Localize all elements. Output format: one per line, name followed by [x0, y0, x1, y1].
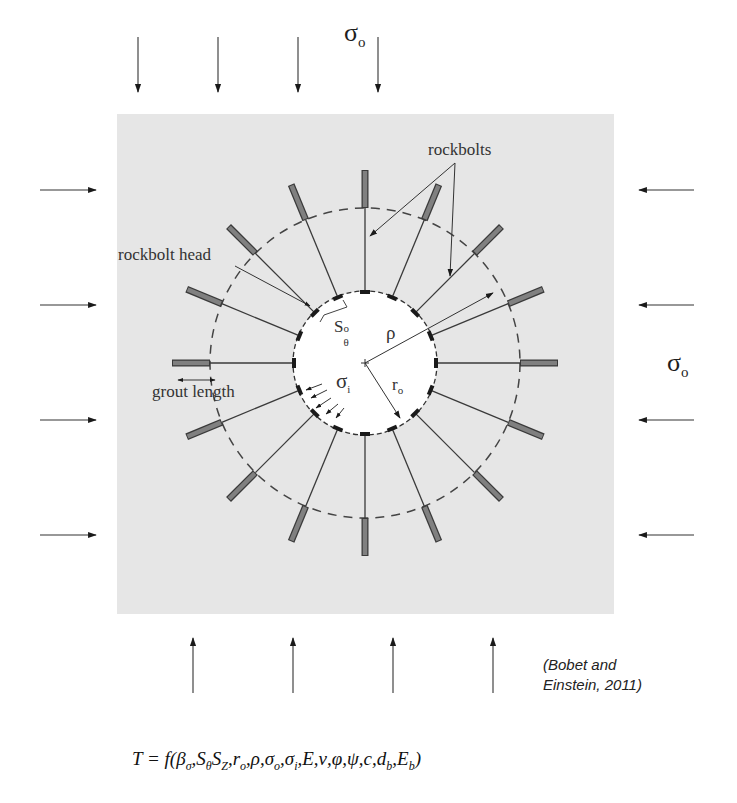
bolt-spacing-label: Soθ	[334, 317, 351, 337]
grout-length-label: grout length	[152, 382, 235, 402]
rockbolt-head	[434, 358, 438, 368]
citation: (Bobet and Einstein, 2011)	[543, 655, 642, 695]
governing-equation: T = f(βσ,SθSZ,ro,ρ,σo,σi,E,ν,φ,ψ,c,db,Eb…	[132, 748, 421, 774]
tunnel-radius-label: ro	[392, 375, 403, 396]
far-field-stress-right-label: σo	[667, 348, 689, 381]
rockbolt-head-label: rockbolt head	[118, 245, 211, 265]
rockbolt-head	[360, 432, 370, 436]
rockbolts-label: rockbolts	[428, 140, 491, 160]
internal-pressure-label: σi	[336, 369, 350, 395]
rockbolt-head	[292, 358, 296, 368]
rockbolt-diagram: σo σo rockbolts rockbolt head grout leng…	[0, 0, 737, 803]
rho-label: ρ	[386, 322, 395, 344]
rockbolt-head	[360, 290, 370, 294]
far-field-stress-top-label: σo	[344, 18, 366, 51]
